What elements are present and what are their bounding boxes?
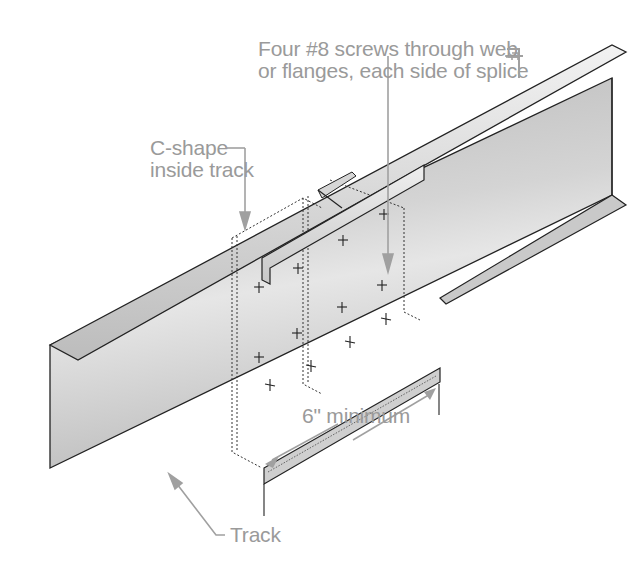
leader-screws-final bbox=[0, 0, 641, 562]
leader-screws-vertical-html bbox=[518, 48, 520, 78]
label-c-shape: C-shape inside track bbox=[150, 137, 254, 181]
label-dimension: 6" minimum bbox=[302, 405, 410, 427]
label-c-shape-line2: inside track bbox=[150, 159, 254, 181]
label-screws-line2: or flanges, each side of splice bbox=[258, 60, 528, 82]
label-track: Track bbox=[230, 524, 281, 546]
label-screws: Four #8 screws through web or flanges, e… bbox=[258, 38, 528, 82]
label-c-shape-line1: C-shape bbox=[150, 137, 254, 159]
label-screws-line1: Four #8 screws through web bbox=[258, 38, 528, 60]
